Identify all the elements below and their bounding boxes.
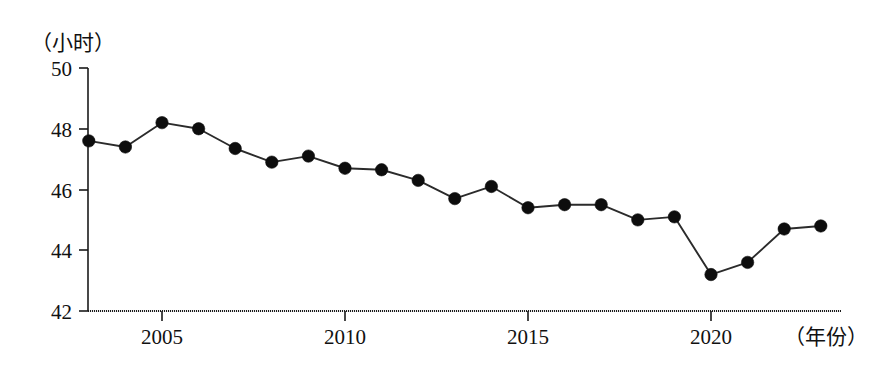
x-tick-label-2005: 2005 [141, 325, 183, 349]
data-point [119, 141, 131, 153]
data-point [705, 268, 717, 280]
x-tick-label-2015: 2015 [507, 325, 549, 349]
data-point [83, 135, 95, 147]
data-point [485, 180, 497, 192]
y-axis-ticks [79, 68, 88, 311]
y-tick-label-44: 44 [51, 239, 73, 263]
data-point [266, 156, 278, 168]
data-point [192, 123, 204, 135]
y-axis-unit-label: （小时） [31, 31, 115, 55]
x-tick-label-2020: 2020 [690, 325, 732, 349]
x-axis-unit-label: （年份） [784, 325, 868, 349]
data-point [558, 198, 570, 210]
x-tick-label-2010: 2010 [324, 325, 366, 349]
data-point [595, 198, 607, 210]
data-point [522, 202, 534, 214]
data-point [449, 192, 461, 204]
data-point [778, 223, 790, 235]
data-point [741, 256, 753, 268]
data-point [668, 211, 680, 223]
data-point [339, 162, 351, 174]
data-point [302, 150, 314, 162]
y-tick-label-48: 48 [51, 118, 72, 142]
x-axis-ticks [162, 311, 711, 321]
line-chart: （小时） 50 48 46 44 42 2005 2010 2015 [0, 0, 883, 376]
data-point [412, 174, 424, 186]
y-tick-label-46: 46 [51, 179, 72, 203]
data-point [229, 142, 241, 154]
data-point [375, 164, 387, 176]
data-point [815, 220, 827, 232]
series-markers [83, 116, 827, 280]
data-point [156, 116, 168, 128]
chart-screenshot: （小时） 50 48 46 44 42 2005 2010 2015 [0, 0, 883, 376]
y-tick-label-42: 42 [51, 300, 72, 324]
data-point [632, 214, 644, 226]
y-tick-label-50: 50 [51, 57, 72, 81]
